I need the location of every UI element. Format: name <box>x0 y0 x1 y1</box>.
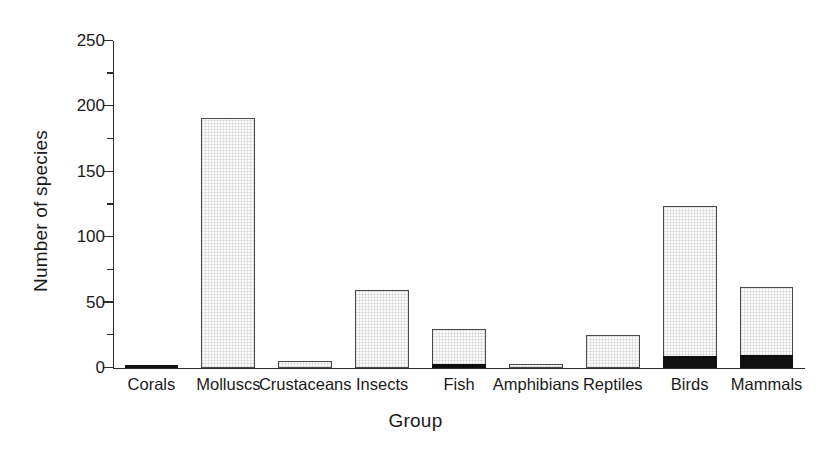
x-axis-title: Group <box>0 410 819 432</box>
x-tick-label: Mammals <box>731 375 803 394</box>
x-axis-line <box>113 368 805 369</box>
bar-black-segment <box>740 355 794 368</box>
y-tick-mark <box>104 367 113 368</box>
y-tick-label: 200 <box>77 96 105 116</box>
bar-group <box>740 41 794 368</box>
y-axis-title: Number of species <box>30 91 52 331</box>
y-tick-label: 150 <box>77 162 105 182</box>
bar-group <box>432 41 486 368</box>
bar-series <box>113 41 805 368</box>
bar <box>509 364 563 368</box>
plot-area: 050100150200250 CoralsMolluscsCrustacean… <box>113 41 805 368</box>
bar-group <box>355 41 409 368</box>
bar-group <box>201 41 255 368</box>
bar-chart: Number of species 050100150200250 Corals… <box>0 0 819 453</box>
y-tick-label: 50 <box>86 293 105 313</box>
y-tick-mark <box>104 40 113 41</box>
bar-black-segment <box>125 365 179 368</box>
x-tick-label: Amphibians <box>493 375 579 394</box>
x-tick-label: Molluscs <box>196 375 260 394</box>
bar <box>663 206 717 368</box>
y-tick-mark <box>104 105 113 106</box>
bar-group <box>586 41 640 368</box>
bar-black-segment <box>432 364 486 368</box>
bar-group <box>125 41 179 368</box>
bar <box>278 361 332 368</box>
y-tick-label: 250 <box>77 31 105 51</box>
bar-group <box>509 41 563 368</box>
x-axis-title-text: Group <box>389 410 443 431</box>
bar <box>432 329 486 368</box>
y-tick-mark <box>104 236 113 237</box>
bar <box>586 335 640 368</box>
x-tick-label: Insects <box>356 375 408 394</box>
x-tick-label: Reptiles <box>583 375 643 394</box>
y-tick-label: 0 <box>96 358 105 378</box>
bar <box>355 290 409 368</box>
bar-group <box>663 41 717 368</box>
bar-group <box>278 41 332 368</box>
bar <box>201 118 255 368</box>
bar-black-segment <box>663 356 717 368</box>
x-tick-label: Corals <box>128 375 176 394</box>
x-tick-label: Fish <box>443 375 474 394</box>
x-tick-label: Crustaceans <box>259 375 352 394</box>
y-tick-label: 100 <box>77 227 105 247</box>
y-tick-mark <box>104 171 113 172</box>
y-tick-mark <box>104 301 113 302</box>
x-tick-label: Birds <box>671 375 709 394</box>
